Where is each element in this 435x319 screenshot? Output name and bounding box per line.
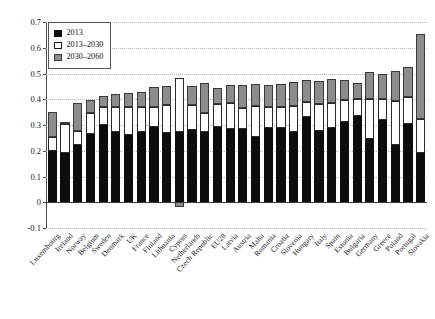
bar-segment xyxy=(416,153,425,202)
bar-segment xyxy=(149,87,158,106)
bar-segment xyxy=(162,105,171,133)
bar-segment xyxy=(289,106,298,132)
bar-segment xyxy=(416,34,425,119)
bar-group xyxy=(238,22,247,228)
bar-group xyxy=(289,22,298,228)
bar-segment xyxy=(137,92,146,107)
bar-segment xyxy=(365,99,374,139)
bar-group xyxy=(416,22,425,228)
legend-label-2030-2060: 2030–2060 xyxy=(67,53,104,61)
bar-group xyxy=(175,22,184,228)
bar-segment xyxy=(175,78,184,133)
bar-segment xyxy=(314,104,323,130)
bar-segment xyxy=(403,97,412,124)
bar-segment xyxy=(200,113,209,132)
bar-segment xyxy=(314,131,323,203)
bar-segment xyxy=(60,124,69,153)
y-tick-label: 0 xyxy=(37,198,41,207)
legend-item-2030-2060: 2030–2060 xyxy=(54,52,103,63)
bar-segment xyxy=(353,99,362,116)
bar-segment xyxy=(111,107,120,132)
bar-segment xyxy=(340,80,349,101)
legend-swatch-2013-icon xyxy=(54,30,62,38)
bar-segment xyxy=(353,116,362,202)
bar-segment xyxy=(200,132,209,202)
bar-segment xyxy=(124,93,133,107)
bar-group xyxy=(340,22,349,228)
bar-segment xyxy=(99,125,108,202)
bar-segment xyxy=(264,85,273,107)
bar-group xyxy=(378,22,387,228)
bar-segment xyxy=(86,100,95,113)
bar-group xyxy=(137,22,146,228)
bar-segment xyxy=(86,113,95,134)
y-tick-label: 0.3 xyxy=(30,121,41,130)
bar-segment xyxy=(302,117,311,202)
legend-swatch-2030-2060-icon xyxy=(54,54,62,62)
y-tick-label: 0.5 xyxy=(30,69,41,78)
bar-segment xyxy=(276,128,285,202)
bar-segment xyxy=(187,105,196,129)
legend-swatch-2013-2030-icon xyxy=(54,42,62,50)
bar-segment xyxy=(175,132,184,202)
bar-segment xyxy=(327,128,336,202)
bar-segment xyxy=(149,127,158,202)
bar-group xyxy=(276,22,285,228)
bar-segment xyxy=(99,107,108,125)
y-tick-label: 0.7 xyxy=(30,18,41,27)
bar-segment xyxy=(378,74,387,100)
bar-group xyxy=(187,22,196,228)
bar-segment xyxy=(162,86,171,105)
bar-segment xyxy=(48,151,57,203)
bar-segment xyxy=(378,99,387,120)
bar-segment xyxy=(73,145,82,202)
bar-segment xyxy=(137,107,146,132)
bar-segment xyxy=(60,122,69,124)
bar-group xyxy=(213,22,222,228)
bar-segment xyxy=(365,72,374,99)
bar-segment xyxy=(264,128,273,203)
bar-segment xyxy=(111,94,120,107)
bar-group xyxy=(149,22,158,228)
bar-segment xyxy=(251,84,260,106)
bar-segment xyxy=(251,106,260,137)
bar-segment xyxy=(314,81,323,104)
bar-segment xyxy=(213,104,222,127)
y-tick-label: 0.1 xyxy=(30,172,41,181)
bar-segment xyxy=(60,153,69,202)
bar-segment xyxy=(175,202,184,206)
legend-label-2013-2030: 2013–2030 xyxy=(67,41,104,49)
bar-group xyxy=(251,22,260,228)
bar-segment xyxy=(213,127,222,202)
x-axis-labels: LuxembourgIrelandNorwayBelgiumSwedenDenm… xyxy=(46,232,427,318)
bar-segment xyxy=(340,122,349,203)
bar-segment xyxy=(200,83,209,113)
bar-segment xyxy=(276,107,285,128)
bar-group xyxy=(111,22,120,228)
bar-segment xyxy=(391,71,400,101)
y-tick-label: 0.2 xyxy=(30,147,41,156)
bar-segment xyxy=(149,107,158,127)
bar-segment xyxy=(48,112,57,138)
bar-segment xyxy=(378,120,387,202)
gridline xyxy=(46,228,427,229)
bar-segment xyxy=(264,107,273,128)
bar-group xyxy=(353,22,362,228)
bar-segment xyxy=(187,86,196,105)
bar-group xyxy=(314,22,323,228)
bar-segment xyxy=(86,134,95,202)
bar-segment xyxy=(73,131,82,145)
bar-segment xyxy=(302,80,311,102)
bar-segment xyxy=(340,100,349,121)
y-tick-label: 0.6 xyxy=(30,44,41,53)
bar-segment xyxy=(187,130,196,203)
bar-segment xyxy=(416,119,425,154)
bar-segment xyxy=(327,103,336,128)
chart-legend: 2013 2013–2030 2030–2060 xyxy=(48,22,111,69)
bar-segment xyxy=(353,83,362,100)
bar-segment xyxy=(238,85,247,108)
bar-segment xyxy=(213,88,222,104)
bar-segment xyxy=(302,102,311,117)
y-tick-label: 0.4 xyxy=(30,95,41,104)
bar-group xyxy=(264,22,273,228)
